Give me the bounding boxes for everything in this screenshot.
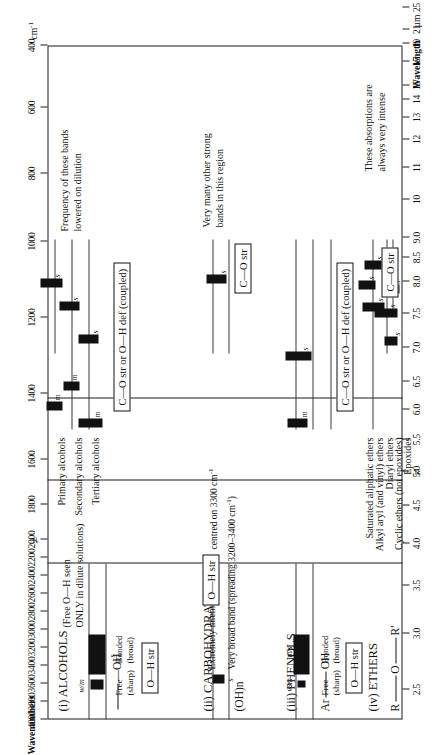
- wn-tick-1200: 1200: [26, 308, 36, 326]
- rule-phenol-co-a: [295, 239, 296, 429]
- boxcap-alcohol-co-str-text: C—O str or O—H def (coupled): [116, 268, 127, 405]
- wl-tick-6.0: 6.0: [411, 403, 421, 414]
- label-phenol-oh-bonded-intensity: m/s: [284, 646, 293, 657]
- label-primary-alcohol-oh-def-intensity: m: [52, 394, 61, 400]
- note-carbohydrate-centred: centred on 3300 cm-1: [206, 468, 220, 549]
- formula-ethers-right: R′: [388, 625, 400, 635]
- note-carbohydrate-broad-exponent: -1: [224, 499, 232, 505]
- rowlabel-tertiary-alcohols: Tertiary alcohols: [89, 437, 100, 555]
- wn-tick-1800: 1800: [26, 495, 36, 513]
- wavelength-axis-unit: µm: [411, 14, 421, 27]
- boxcap-ether-co-str-text: C—O str: [384, 253, 395, 291]
- wl-tick-13: 13: [411, 112, 421, 121]
- rule-phenol-oh-b: [312, 563, 313, 719]
- label-carbohydrate-co-str-intensity: s: [218, 270, 227, 273]
- wavenumber-axis-title: Wavenumbers: [26, 695, 36, 754]
- label-alkyl-aryl-ether-sym-intensity: s: [366, 276, 375, 279]
- rowlabel-secondary-alcohols: Secondary alcohols: [72, 437, 83, 555]
- caption-phenol-oh-free: Free (sharp): [319, 670, 342, 696]
- note-carbohydrate-broad-text: Very broad band (spreading 3200–3400 cm: [226, 505, 236, 669]
- boxcap-phenol-oh-str: O—H str: [345, 642, 362, 693]
- label-secondary-alcohol-oh-def-intensity: m: [69, 374, 78, 380]
- bar-tertiary-alcohol-co-str: [78, 334, 98, 343]
- wn-tick-2200: 2200: [26, 548, 36, 566]
- wl-tick-3.0: 3.0: [411, 627, 421, 638]
- wn-tick-1400: 1400: [26, 384, 36, 402]
- label-phenol-oh-def-intensity: m: [299, 411, 308, 417]
- section-title-alcohols: (i) ALCOHOLS: [55, 630, 70, 711]
- wavenumber-axis-break-icon: ≠: [28, 537, 40, 543]
- bond-line-icon: [395, 675, 396, 701]
- wl-tick-7.0: 7.0: [411, 341, 421, 352]
- wn-tick-600: 600: [26, 100, 36, 114]
- formula-ethers-left: R: [388, 703, 400, 711]
- note-carbohydrate-centred-text: centred on 3300 cm: [208, 474, 218, 549]
- note-carbohydrate-broad: Very broad band (spreading 3200–3400 cm-…: [224, 496, 238, 669]
- bar-alkyl-aryl-ether-co-str-sym: [358, 280, 375, 289]
- wl-tick-12: 12: [411, 134, 421, 143]
- wavenumber-axis: 4000 3800 3600 3400 3200 3000 2800 2600 …: [47, 45, 48, 719]
- label-tertiary-alcohol-oh-def-intensity: m: [92, 411, 101, 417]
- formula-carbohydrates: (OH)n: [232, 681, 244, 711]
- rule-carb-co-b: [228, 239, 229, 353]
- boxcap-ether-co-str: C—O str: [381, 247, 398, 297]
- formula-carbohydrates-text: (OH)n: [232, 681, 244, 711]
- label-phenol-co-str-intensity: s: [300, 347, 309, 350]
- wl-tick-9.0: 9.0: [411, 231, 421, 242]
- wn-tick-3400: 3400: [26, 656, 36, 674]
- wl-tick-11: 11: [411, 163, 421, 172]
- bar-phenol-oh-def: [287, 418, 307, 427]
- bar-phenol-oh-free: [297, 680, 305, 687]
- formula-ethers: ROR′: [388, 625, 400, 711]
- bar-secondary-alcohol-co-str: [59, 301, 79, 310]
- rowlabel-epoxides: Epoxides: [401, 437, 412, 605]
- bond-line-icon: [395, 637, 396, 663]
- section-title-ethers: (iv) ETHERS: [365, 643, 380, 711]
- note-carbohydrate-broad-tail: ): [226, 496, 236, 499]
- bar-carbohydrate-co-str: [206, 274, 226, 283]
- wl-tick-14: 14: [411, 94, 421, 103]
- rule-alcohol-oh-c: [88, 563, 89, 601]
- note-carbohydrate-centred-exponent: -1: [206, 468, 214, 474]
- bar-secondary-alcohol-oh-def: [63, 381, 79, 390]
- wl-tick-7.5: 7.5: [411, 307, 421, 318]
- label-alcohol-oh-free-intensity: w/m: [76, 679, 85, 692]
- wl-tick-8.5: 8.5: [411, 251, 421, 262]
- wl-tick-4.5: 4.5: [411, 499, 421, 510]
- boxcap-carbohydrate-oh-str-text: O—H str: [205, 560, 216, 599]
- wn-tick-800: 800: [26, 166, 36, 180]
- wn-tick-2400: 2400: [26, 566, 36, 584]
- bar-cyclic-ether-co-str: [364, 260, 382, 269]
- rowlabel-alkyl-aryl-ethers: Alkyl aryl (and vinyl) ethers: [373, 437, 384, 605]
- rowlabel-primary-alcohols: Primary alcohols: [55, 437, 66, 555]
- rule-alcohol-co-c: [54, 239, 55, 353]
- formula-phenols-left: Ar: [318, 699, 330, 711]
- caption-alcohol-oh-bonded: Bonded (broad): [113, 635, 136, 663]
- wn-unit-text: cm: [28, 27, 38, 39]
- bar-diaryl-ether-co-str: [374, 308, 397, 317]
- rowlabel-saturated-aliphatic-ethers: Saturated aliphatic ethers: [363, 437, 374, 605]
- wn-tick-3600: 3600: [26, 674, 36, 692]
- bar-phenol-oh-bonded: [293, 634, 309, 674]
- bar-primary-alcohol-oh-def: [46, 401, 62, 410]
- note-carbohydrate-intense: Extremely intense: [206, 600, 218, 669]
- label-saturated-aliphatic-ether-intensity: s: [375, 298, 384, 301]
- ir-correlation-chart: 4000 3800 3600 3400 3200 3000 2800 2600 …: [0, 0, 439, 755]
- label-alkyl-aryl-ether-asym-intensity: s: [392, 332, 401, 335]
- wl-tick-8.0: 8.0: [411, 275, 421, 286]
- wavenumber-axis-unit: cm-1: [26, 22, 38, 39]
- boxcap-carbohydrate-co-str: C—O str: [234, 243, 251, 293]
- rule-carb-co-a: [212, 239, 213, 353]
- wl-tick-25: 25: [411, 2, 421, 11]
- caption-alcohol-oh-free: Free (sharp): [113, 670, 136, 696]
- wavelength-axis: 2.5 3.0 3.5 4.0 4.5 5.0 5.5 6.0 6.5 7.0 …: [402, 45, 403, 719]
- wn-tick-400: 400: [26, 38, 36, 52]
- formula-ethers-mid: O: [388, 665, 400, 673]
- wl-tick-5.5: 5.5: [411, 433, 421, 444]
- rule-phenol-co-c: [330, 239, 331, 429]
- wn-tick-2600: 2600: [26, 584, 36, 602]
- wl-tick-4.0: 4.0: [411, 537, 421, 548]
- boxcap-carbohydrate-co-str-text: C—O str: [237, 249, 248, 287]
- boxcap-alcohol-co-str: C—O str or O—H def (coupled): [113, 262, 130, 411]
- label-secondary-alcohol-co-str-intensity: s: [70, 297, 79, 300]
